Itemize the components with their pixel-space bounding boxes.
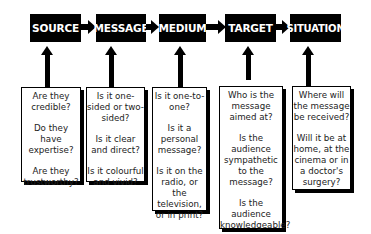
stage-situation: SITUATION <box>290 14 341 42</box>
stage-target: TARGET <box>225 14 276 42</box>
arrow-right-icon <box>81 24 89 30</box>
question: Is it one-sided or two-sided? <box>87 91 144 124</box>
target-questions: Who is the message aimed at? Is the audi… <box>219 86 283 229</box>
arrow-up-icon <box>178 55 183 88</box>
question: Is it one-to-one? <box>153 91 206 113</box>
message-questions: Is it one-sided or two-sided? Is it clea… <box>86 87 145 182</box>
question: Who is the message aimed at? <box>220 90 282 123</box>
arrow-up-icon <box>306 55 311 86</box>
arrow-right-icon <box>206 24 219 30</box>
source-questions: Are they credible? Do they have expertis… <box>21 87 81 182</box>
question: Is it clear and direct? <box>87 134 144 156</box>
question: Do they have expertise? <box>22 123 80 156</box>
question: Is the audience sympathetic to the messa… <box>220 133 282 188</box>
question: Is it a personal message? <box>153 123 206 156</box>
question: Where will the message be received? <box>293 90 350 123</box>
question: Is it on the radio, or the television, o… <box>153 166 206 221</box>
arrow-right-icon <box>276 24 283 30</box>
stage-message: MESSAGE <box>96 14 146 42</box>
question: Will it be at home, at the cinema or in … <box>293 133 350 188</box>
stage-medium: MEDIUM <box>159 14 206 42</box>
question: Are they credible? <box>22 91 80 113</box>
arrow-up-icon <box>45 55 50 88</box>
stage-source: SOURCE <box>30 14 81 42</box>
medium-questions: Is it one-to-one? Is it a personal messa… <box>152 87 207 211</box>
arrow-up-icon <box>246 55 251 80</box>
arrow-up-icon <box>109 55 114 88</box>
situation-questions: Where will the message be received? Will… <box>292 86 351 190</box>
question: Are they trustworthy? <box>22 166 80 188</box>
arrow-right-icon <box>146 24 152 30</box>
question: Is it colourful and vivid? <box>87 166 144 188</box>
communication-process-diagram: SOURCE MESSAGE MEDIUM TARGET SITUATION A… <box>0 0 371 234</box>
question: Is the audience knowledgeable? <box>220 198 282 231</box>
